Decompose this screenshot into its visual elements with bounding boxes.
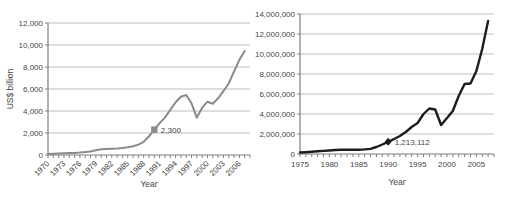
y-tick-label: 12,000 xyxy=(19,19,44,28)
y-tick-label: 14,000,000 xyxy=(255,10,296,19)
gridlines xyxy=(48,23,250,133)
x-tick-label: 1982 xyxy=(96,159,115,178)
x-axis-title-left: Year xyxy=(48,179,250,189)
y-tick-label: 8,000,000 xyxy=(259,70,295,79)
x-tick-label: 2003 xyxy=(208,159,227,178)
x-tick-label: 1988 xyxy=(128,159,147,178)
x-axis-title-right: Year xyxy=(300,177,494,187)
y-tick-label: 4,000,000 xyxy=(259,110,295,119)
y-tick-label: 10,000 xyxy=(19,41,44,50)
x-tick-label: 1976 xyxy=(64,159,83,178)
x-tick-label: 2000 xyxy=(438,160,456,169)
x-axis-labels: 1975198019851990199520002005 xyxy=(291,160,486,169)
x-tick-label: 1995 xyxy=(409,160,427,169)
x-tick-label: 1997 xyxy=(176,159,195,178)
x-tick-label: 1975 xyxy=(291,160,309,169)
annotation: 1,213,112 xyxy=(395,138,431,147)
y-tick-label: 2,000 xyxy=(23,129,44,138)
chart-right-plot: 02,000,0004,000,0006,000,0008,000,00010,… xyxy=(254,0,508,202)
x-tick-label: 2000 xyxy=(192,159,211,178)
data-point-marker xyxy=(151,127,157,133)
data-line xyxy=(300,21,488,153)
chart-left-plot: 02,0004,0006,0008,00010,00012,0001970197… xyxy=(0,0,254,202)
y-axis-ticks-and-labels: 02,000,0004,000,0006,000,0008,000,00010,… xyxy=(255,10,300,159)
x-tick-label: 1985 xyxy=(350,160,368,169)
marker-value-label: 1,213,112 xyxy=(395,138,431,147)
dual-line-chart-figure: US$ billion 02,0004,0006,0008,00010,0001… xyxy=(0,0,508,202)
y-tick-label: 2,000,000 xyxy=(259,130,295,139)
y-tick-label: 12,000,000 xyxy=(255,30,296,39)
y-tick-label: 0 xyxy=(39,151,44,160)
chart-right: 02,000,0004,000,0006,000,0008,000,00010,… xyxy=(254,0,508,202)
x-tick-label: 1991 xyxy=(144,159,163,178)
x-tick-label: 1985 xyxy=(112,159,131,178)
x-tick-label: 1973 xyxy=(48,159,67,178)
x-tick-label: 1990 xyxy=(379,160,397,169)
x-tick-label: 1979 xyxy=(80,159,99,178)
gridlines xyxy=(300,14,494,134)
x-tick-label: 2005 xyxy=(467,160,485,169)
y-tick-label: 0 xyxy=(291,150,296,159)
chart-left: US$ billion 02,0004,0006,0008,00010,0001… xyxy=(0,0,254,202)
x-tick-label: 2006 xyxy=(224,159,243,178)
x-tick-label: 1970 xyxy=(32,159,51,178)
annotation: 2,300 xyxy=(161,126,182,135)
x-axis-labels: 1970197319761979198219851988199119941997… xyxy=(32,159,243,178)
data-point-marker xyxy=(385,138,392,146)
y-tick-label: 10,000,000 xyxy=(255,50,296,59)
marker-value-label: 2,300 xyxy=(161,126,182,135)
y-tick-label: 4,000 xyxy=(23,107,44,116)
data-line xyxy=(48,51,245,154)
y-tick-label: 6,000,000 xyxy=(259,90,295,99)
x-tick-label: 1994 xyxy=(160,159,179,178)
x-tick-label: 1980 xyxy=(320,160,338,169)
y-axis-ticks-and-labels: 02,0004,0006,0008,00010,00012,000 xyxy=(19,19,48,160)
y-tick-label: 6,000 xyxy=(23,85,44,94)
y-tick-label: 8,000 xyxy=(23,63,44,72)
